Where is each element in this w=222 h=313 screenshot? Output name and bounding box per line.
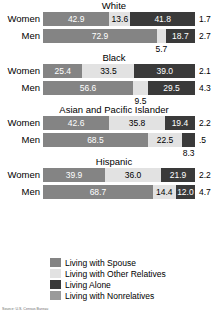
legend-swatch xyxy=(50,291,61,300)
bar-segment: 12.0 xyxy=(176,185,195,199)
segment-value: 39.9 xyxy=(66,171,83,180)
group-title: Hispanic xyxy=(0,156,222,168)
segment-value: 33.5 xyxy=(100,67,117,76)
stacked-bar: 68.522.58.3 xyxy=(43,133,195,147)
chart-legend: Living with SpouseLiving with Other Rela… xyxy=(50,257,220,301)
chart-row: Women39.936.021.92.2 xyxy=(0,168,222,183)
bar-segment: 14.4 xyxy=(153,185,176,199)
legend-swatch xyxy=(50,280,61,289)
bar-segment: 41.8 xyxy=(130,12,195,26)
bar-segment: 22.5 xyxy=(148,133,182,147)
stacked-bar: 25.433.539.0 xyxy=(43,64,195,78)
bar-segment: 42.6 xyxy=(43,116,109,130)
segment-value: 41.8 xyxy=(154,15,171,24)
segment-value: 39.0 xyxy=(156,67,173,76)
row-label: Women xyxy=(0,116,40,130)
row-label: Women xyxy=(0,12,40,26)
legend-item: Living with Other Relatives xyxy=(50,268,220,279)
trailing-value: 2.1 xyxy=(199,64,211,78)
trailing-value: 4.3 xyxy=(199,81,211,95)
stacked-bar: 39.936.021.9 xyxy=(43,168,195,182)
bar-segment: 68.5 xyxy=(43,133,148,147)
segment-value: 13.6 xyxy=(112,15,129,24)
group-title: Asian and Pacific Islander xyxy=(0,104,222,116)
trailing-value: 2.2 xyxy=(199,168,211,182)
group-spacer xyxy=(0,202,222,208)
segment-value: 35.8 xyxy=(129,119,146,128)
legend-label: Living with Nonrelatives xyxy=(65,291,154,301)
row-label: Women xyxy=(0,64,40,78)
segment-value: 72.9 xyxy=(92,32,109,41)
bar-segment: 36.0 xyxy=(105,168,161,182)
bar-segment: 39.0 xyxy=(134,64,195,78)
bar-segment: 19.4 xyxy=(165,116,195,130)
chart-group: WhiteWomen42.913.641.81.7Men72.95.718.72… xyxy=(0,0,222,52)
segment-value: 19.4 xyxy=(172,119,189,128)
row-label: Men xyxy=(0,29,40,43)
segment-value: 29.5 xyxy=(163,84,180,93)
row-label: Men xyxy=(0,81,40,95)
chart-row: Women42.635.819.42.2 xyxy=(0,116,222,131)
bar-segment: 35.8 xyxy=(109,116,165,130)
bar-segment: 5.7 xyxy=(157,29,166,43)
bar-segment: 13.6 xyxy=(109,12,130,26)
segment-value: 14.4 xyxy=(156,188,173,197)
legend-item: Living with Spouse xyxy=(50,257,220,268)
chart-group: Asian and Pacific IslanderWomen42.635.81… xyxy=(0,104,222,156)
legend-swatch xyxy=(50,258,61,267)
bar-segment: 72.9 xyxy=(43,29,157,43)
row-label: Women xyxy=(0,168,40,182)
bar-segment: 8.3 xyxy=(182,133,195,147)
segment-value: 12.0 xyxy=(177,188,194,197)
bar-segment: 42.9 xyxy=(43,12,109,26)
bar-segment: 21.9 xyxy=(161,168,195,182)
legend-label: Living Alone xyxy=(65,280,111,290)
trailing-value: 2.7 xyxy=(199,29,211,43)
chart-row: Men68.522.58.3.5 xyxy=(0,133,222,148)
trailing-value: 2.2 xyxy=(199,116,211,130)
stacked-bar: 72.95.718.7 xyxy=(43,29,195,43)
chart-row: Men68.714.412.04.7 xyxy=(0,185,222,200)
trailing-value: 4.7 xyxy=(199,185,211,199)
chart-group: BlackWomen25.433.539.02.1Men56.69.529.54… xyxy=(0,52,222,104)
legend-swatch xyxy=(50,269,61,278)
trailing-value: 1.7 xyxy=(199,12,211,26)
bar-segment: 25.4 xyxy=(43,64,82,78)
segment-value: 22.5 xyxy=(157,136,174,145)
bar-segment: 33.5 xyxy=(82,64,134,78)
source-note: Source: U.S. Census Bureau xyxy=(2,307,48,312)
segment-value: 42.6 xyxy=(68,119,85,128)
chart-row: Women42.913.641.81.7 xyxy=(0,12,222,27)
segment-value: 25.4 xyxy=(54,67,71,76)
legend-item: Living Alone xyxy=(50,279,220,290)
group-title: White xyxy=(0,0,222,12)
segment-value: 42.9 xyxy=(68,15,85,24)
segment-value: 36.0 xyxy=(125,171,142,180)
chart-row: Women25.433.539.02.1 xyxy=(0,64,222,79)
stacked-bar-chart: WhiteWomen42.913.641.81.7Men72.95.718.72… xyxy=(0,0,222,313)
bar-segment: 39.9 xyxy=(43,168,105,182)
group-title: Black xyxy=(0,52,222,64)
segment-value: 21.9 xyxy=(170,171,187,180)
stacked-bar: 68.714.412.0 xyxy=(43,185,195,199)
chart-groups: WhiteWomen42.913.641.81.7Men72.95.718.72… xyxy=(0,0,222,208)
row-label: Men xyxy=(0,133,40,147)
bar-segment: 18.7 xyxy=(166,29,195,43)
legend-item: Living with Nonrelatives xyxy=(50,290,220,301)
row-label: Men xyxy=(0,185,40,199)
chart-group: HispanicWomen39.936.021.92.2Men68.714.41… xyxy=(0,156,222,208)
legend-label: Living with Spouse xyxy=(65,258,136,268)
legend-label: Living with Other Relatives xyxy=(65,269,166,279)
bar-segment: 29.5 xyxy=(148,81,195,95)
segment-value: 56.6 xyxy=(80,84,97,93)
stacked-bar: 56.69.529.5 xyxy=(43,81,195,95)
chart-row: Men72.95.718.72.7 xyxy=(0,29,222,44)
stacked-bar: 42.913.641.8 xyxy=(43,12,195,26)
bar-segment: 68.7 xyxy=(43,185,153,199)
trailing-value: .5 xyxy=(199,133,206,147)
segment-value: 68.5 xyxy=(87,136,104,145)
chart-row: Men56.69.529.54.3 xyxy=(0,81,222,96)
segment-value: 68.7 xyxy=(90,188,107,197)
bar-segment: 9.5 xyxy=(133,81,148,95)
segment-value: 18.7 xyxy=(172,32,189,41)
